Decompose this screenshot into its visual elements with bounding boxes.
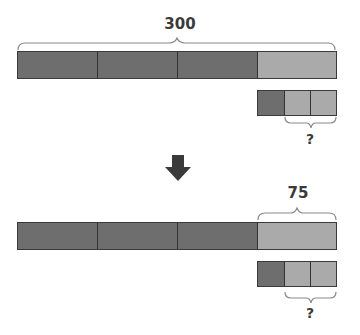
down-arrow-icon xyxy=(165,155,191,181)
small-bar-segment xyxy=(311,262,336,286)
top-question-label: ? xyxy=(298,131,322,147)
total-brace xyxy=(17,38,337,52)
bottom-question-label: ? xyxy=(298,305,322,321)
total-label: 300 xyxy=(148,15,212,33)
top-bar-segment xyxy=(98,52,178,78)
bottom-question-brace xyxy=(284,292,338,304)
top-question-brace xyxy=(284,117,338,129)
top-bar xyxy=(17,51,337,79)
top-small-bar xyxy=(257,90,337,116)
part-label: 75 xyxy=(280,184,316,202)
top-bar-segment xyxy=(18,52,98,78)
bottom-bar-segment xyxy=(178,223,258,249)
small-bar-segment xyxy=(258,91,285,115)
small-bar-segment xyxy=(258,262,285,286)
part-brace xyxy=(257,208,337,222)
bottom-small-bar xyxy=(257,261,337,287)
small-bar-segment xyxy=(285,91,311,115)
bottom-bar-segment xyxy=(98,223,178,249)
small-bar-segment xyxy=(285,262,311,286)
top-bar-segment xyxy=(178,52,258,78)
top-bar-segment xyxy=(258,52,336,78)
bottom-bar-segment xyxy=(258,223,336,249)
bottom-bar xyxy=(17,222,337,250)
bottom-bar-segment xyxy=(18,223,98,249)
small-bar-segment xyxy=(311,91,336,115)
